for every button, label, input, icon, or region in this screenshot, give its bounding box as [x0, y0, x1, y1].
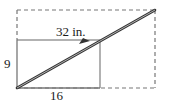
diagonal-hypotenuse	[17, 10, 155, 88]
geometry-figure: 32 in. 9 16	[0, 0, 171, 106]
hypotenuse-length-label: 32 in.	[56, 25, 86, 38]
base-length-label: 16	[50, 89, 63, 102]
diagonal-line-highlight	[17, 10, 155, 88]
figure-canvas	[0, 0, 171, 106]
height-length-label: 9	[4, 57, 11, 70]
